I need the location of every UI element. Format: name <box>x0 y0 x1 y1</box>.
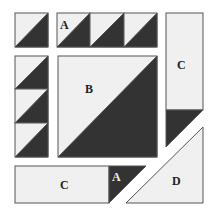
label-top-a: A <box>60 18 69 32</box>
right-c-strip <box>166 13 203 147</box>
label-bottom-c: C <box>60 178 69 192</box>
corner-half-square-triangle <box>15 13 48 47</box>
label-bottom-a: A <box>112 170 121 184</box>
label-right-c: C <box>177 58 186 72</box>
quilt-diagram: A B C C A D <box>0 0 211 215</box>
label-b: B <box>85 82 93 96</box>
top-row-a-units <box>57 13 157 47</box>
center-b-unit <box>58 56 157 157</box>
label-d: D <box>172 174 181 188</box>
bottom-c-strip <box>15 166 146 203</box>
left-column-units <box>15 56 48 157</box>
